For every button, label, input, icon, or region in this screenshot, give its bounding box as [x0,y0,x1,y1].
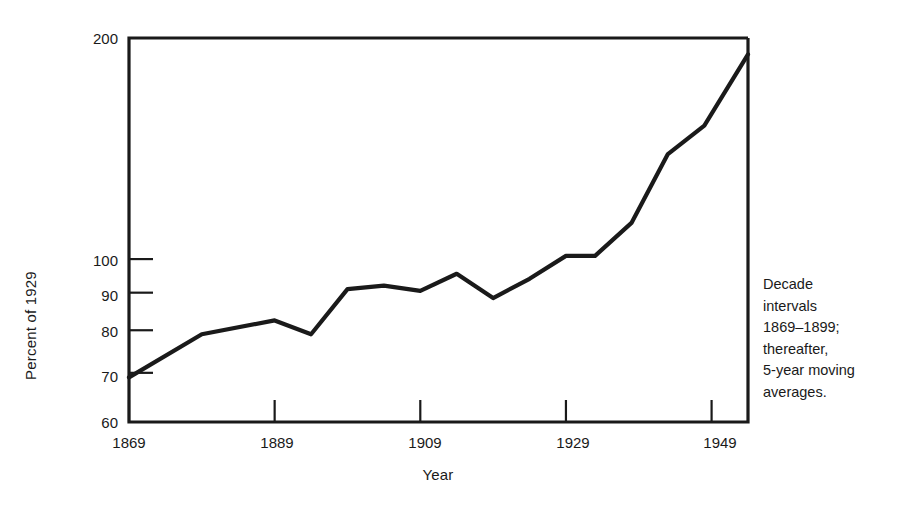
data-series-line [129,54,748,377]
plot-area [0,0,923,509]
axis-frame [129,38,748,422]
chart-figure: Percent of 1929 200 100 90 80 70 60 1869… [0,0,923,509]
y-tick-label-200: 200 [56,30,118,47]
y-tick-label-80: 80 [56,323,118,340]
y-tick-label-60: 60 [56,414,118,431]
y-tick-label-100: 100 [56,252,118,269]
x-tick-label-1909: 1909 [385,434,465,451]
y-axis-ticks [129,259,153,373]
y-tick-label-90: 90 [56,287,118,304]
x-tick-label-1929: 1929 [533,434,613,451]
x-axis-ticks [129,400,712,422]
x-axis-title: Year [378,466,498,483]
x-tick-label-1889: 1889 [237,434,317,451]
x-tick-label-1869: 1869 [89,434,169,451]
x-tick-label-1949: 1949 [680,434,760,451]
y-axis-title: Percent of 1929 [22,80,39,380]
y-tick-label-70: 70 [56,368,118,385]
chart-annotation-note: Decade intervals 1869–1899; thereafter, … [763,274,923,403]
